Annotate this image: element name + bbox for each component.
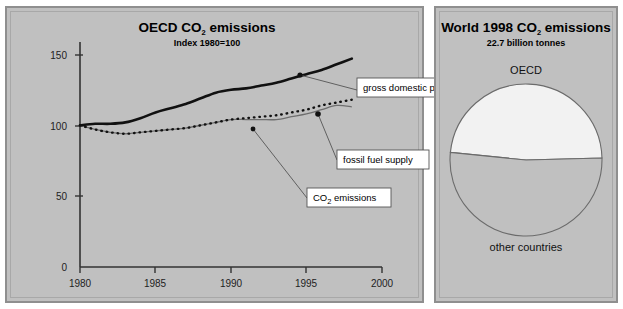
- line-chart-subtitle: Index 1980=100: [174, 38, 240, 48]
- series-gross-domestic-product: [80, 59, 352, 126]
- x-tick-label-1995: 1995: [295, 278, 318, 289]
- pie-slice-label-oecd: OECD: [510, 64, 542, 76]
- line-title-post: emissions: [206, 20, 276, 35]
- pie-chart-subtitle: 22.7 billion tonnes: [487, 38, 566, 48]
- y-tick-label-150: 150: [50, 50, 67, 61]
- callout-co2-emissions[interactable]: CO2 emissions: [307, 188, 391, 207]
- callout-leaders: [251, 72, 357, 198]
- pie-slice-label-other: other countries: [490, 241, 563, 253]
- x-tick-label-1990: 1990: [220, 278, 243, 289]
- anchor-dot-co2: [251, 127, 256, 132]
- leader-line-co2: [253, 129, 307, 198]
- line-chart-panel: OECD CO2 emissions Index 1980=100 150 10…: [5, 6, 424, 303]
- pie-slice-other[interactable]: [450, 152, 602, 236]
- anchor-dot-gdp: [297, 72, 302, 77]
- callout-fossil-fuel-supply[interactable]: fossil fuel supply: [337, 150, 429, 169]
- callout-fossil-label: fossil fuel supply: [343, 154, 413, 165]
- pie-chart-panel: World 1998 CO2 emissions 22.7 billion to…: [434, 6, 618, 303]
- y-tick-label-50: 50: [56, 191, 68, 202]
- series-group: [80, 59, 352, 134]
- pie-title-post: emissions: [541, 20, 611, 35]
- callout-co2-post: emissions: [331, 192, 376, 203]
- y-tick-label-100: 100: [50, 121, 67, 132]
- pie-slice-oecd[interactable]: [450, 84, 602, 160]
- line-title-pre: OECD CO: [139, 20, 202, 35]
- pie-chart-title: World 1998 CO2 emissions: [441, 20, 611, 37]
- leader-line-gdp: [300, 75, 357, 90]
- pie-slices: [450, 84, 602, 236]
- pie-chart-svg: World 1998 CO2 emissions 22.7 billion to…: [436, 8, 616, 301]
- y-tick-label-0: 0: [61, 262, 67, 273]
- callout-co2-pre: CO: [313, 192, 327, 203]
- x-tick-label-2000: 2000: [371, 278, 394, 289]
- x-tick-label-1985: 1985: [144, 278, 167, 289]
- anchor-dot-fossil: [315, 111, 321, 117]
- figure-root: OECD CO2 emissions Index 1980=100 150 10…: [0, 0, 623, 309]
- leader-line-fossil: [318, 114, 337, 160]
- series-co2-emissions: [80, 105, 352, 133]
- line-chart-svg: OECD CO2 emissions Index 1980=100 150 10…: [7, 8, 422, 301]
- pie-title-pre: World 1998 CO: [441, 20, 537, 35]
- series-fossil-fuel-supply: [80, 100, 352, 134]
- x-tick-label-1980: 1980: [69, 278, 92, 289]
- line-chart-title: OECD CO2 emissions: [139, 20, 276, 37]
